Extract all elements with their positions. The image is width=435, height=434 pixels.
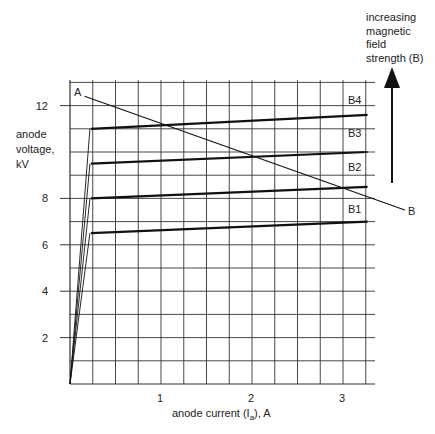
point-a-label: A <box>74 86 82 98</box>
note-line: magnetic <box>366 25 423 39</box>
y-tick-label: 6 <box>42 239 48 251</box>
y-axis-label-line: voltage, <box>16 142 55 157</box>
y-tick-label: 12 <box>36 100 48 112</box>
axis-ticks <box>60 106 70 338</box>
note-line: strength (B) <box>366 52 423 66</box>
y-axis-label-line: anode <box>16 127 55 142</box>
up-arrow-icon <box>384 67 400 183</box>
x-tick-label: 2 <box>248 392 254 404</box>
chart-canvas: AB 246812123 B1B2B3B4 <box>0 0 435 434</box>
x-tick-label: 3 <box>339 392 345 404</box>
y-axis-label: anode voltage, kV <box>16 127 55 172</box>
curve-label-b4: B4 <box>348 94 361 106</box>
x-axis-label: anode current (Ia), A <box>172 407 271 424</box>
note-line: field <box>366 38 423 52</box>
note-line: increasing <box>366 11 423 25</box>
y-tick-label: 2 <box>42 332 48 344</box>
x-tick-label: 1 <box>157 392 163 404</box>
y-axis-label-line: kV <box>16 157 55 172</box>
curve-label-b3: B3 <box>348 127 361 139</box>
origin-fan-lines <box>70 129 90 384</box>
curve-label-b1: B1 <box>348 203 361 215</box>
x-axis-label-unit: ), A <box>254 407 271 419</box>
magnetic-field-note: increasing magnetic field strength (B) <box>366 11 423 65</box>
curve-labels: B1B2B3B4 <box>348 94 361 215</box>
curve-label-b2: B2 <box>348 161 361 173</box>
y-tick-label: 4 <box>42 285 48 297</box>
x-axis-label-text: anode current (I <box>172 407 250 419</box>
point-b-label: B <box>408 205 415 217</box>
y-tick-label: 8 <box>42 192 48 204</box>
